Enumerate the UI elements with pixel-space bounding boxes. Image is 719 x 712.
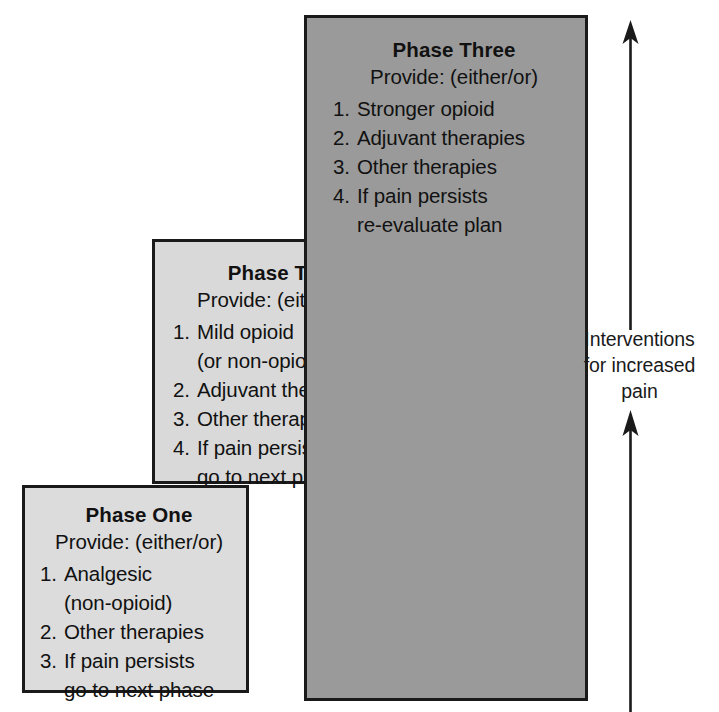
list-item: 3.Other therapies xyxy=(333,152,575,181)
list-item-text: re-evaluate plan xyxy=(333,210,502,239)
list-item-number: 4. xyxy=(333,181,357,210)
list-item-number: 3. xyxy=(333,152,357,181)
list-item-number: 1. xyxy=(40,559,64,588)
arrow-caption-line-2: for increased xyxy=(560,352,719,378)
list-item-number: 2. xyxy=(173,375,197,404)
list-item-text: (non-opioid) xyxy=(40,588,172,617)
arrow-caption-line-1: Interventions xyxy=(560,326,719,352)
list-item-text: go to next phase xyxy=(40,675,214,704)
phase-one-content: Phase One Provide: (either/or) 1.Analges… xyxy=(25,502,246,704)
list-item-text: If pain persists xyxy=(64,649,195,672)
list-item-text: Analgesic xyxy=(64,562,152,585)
list-item: 2.Adjuvant therapies xyxy=(333,123,575,152)
phase-one-title: Phase One xyxy=(40,502,238,528)
list-item: re-evaluate plan xyxy=(333,210,575,239)
arrow-caption-line-3: pain xyxy=(560,378,719,404)
diagram-canvas: Phase Two Provide: (either/or) 1.Mild op… xyxy=(0,0,719,712)
increasing-intervention-arrow-group: Interventions for increased pain xyxy=(560,0,719,712)
phase-three-list: 1.Stronger opioid 2.Adjuvant therapies 3… xyxy=(333,94,575,239)
list-item-number: 3. xyxy=(173,404,197,433)
list-item-number: 4. xyxy=(173,433,197,462)
phase-three-box: Phase Three Provide: (either/or) 1.Stron… xyxy=(304,15,588,701)
list-item-number: 2. xyxy=(40,617,64,646)
list-item: 1.Analgesic xyxy=(40,559,238,588)
list-item-text: Other therapies xyxy=(357,155,497,178)
list-item: (non-opioid) xyxy=(40,588,238,617)
list-item-number: 1. xyxy=(333,94,357,123)
phase-three-title: Phase Three xyxy=(333,37,575,63)
phase-one-provide: Provide: (either/or) xyxy=(40,528,238,556)
list-item-text: If pain persists xyxy=(357,184,488,207)
phase-one-list: 1.Analgesic (non-opioid) 2.Other therapi… xyxy=(40,559,238,704)
list-item-number: 2. xyxy=(333,123,357,152)
list-item-text: Mild opioid xyxy=(197,320,294,343)
list-item-text: Stronger opioid xyxy=(357,97,495,120)
list-item-number: 3. xyxy=(40,646,64,675)
list-item: 4.If pain persists xyxy=(333,181,575,210)
list-item: 1.Stronger opioid xyxy=(333,94,575,123)
phase-one-box: Phase One Provide: (either/or) 1.Analges… xyxy=(22,485,249,693)
list-item-number: 1. xyxy=(173,317,197,346)
arrow-caption: Interventions for increased pain xyxy=(560,326,719,404)
list-item-text: Adjuvant therapies xyxy=(357,126,525,149)
phase-three-provide: Provide: (either/or) xyxy=(333,63,575,91)
list-item-text: Other therapies xyxy=(64,620,204,643)
list-item: 3.If pain persists xyxy=(40,646,238,675)
list-item: 2.Other therapies xyxy=(40,617,238,646)
list-item: go to next phase xyxy=(40,675,238,704)
phase-three-content: Phase Three Provide: (either/or) 1.Stron… xyxy=(307,37,585,239)
